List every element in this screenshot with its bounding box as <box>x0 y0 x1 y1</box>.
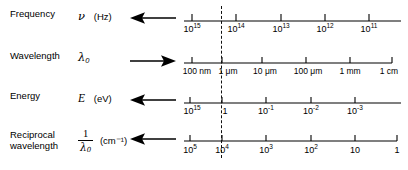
axis-frequency: 1015 1014 1013 1012 1011 <box>0 8 408 50</box>
tick-exp-e0: 15 <box>193 104 201 111</box>
tick-base-e2: 10 <box>258 106 268 116</box>
tick-base-f3: 10 <box>316 24 326 34</box>
tick-label-w0: 100 nm <box>183 66 211 76</box>
axis-reciprocal-wavelength: 105 104 103 102 10 1 <box>0 128 408 170</box>
scale-row-wavelength: Wavelength λ0 100 nm 1 μm 10 μm 100 <box>0 50 408 92</box>
svg-text:10-1: 10-1 <box>258 104 274 116</box>
tick-base-e4: 10 <box>347 106 357 116</box>
svg-text:105: 105 <box>183 143 197 155</box>
tick-label-w2: 10 μm <box>253 66 277 76</box>
tick-label-w4: 1 mm <box>339 66 360 76</box>
tick-base-e3: 10 <box>303 106 313 116</box>
tick-exp-e2: -1 <box>268 104 274 111</box>
svg-text:1015: 1015 <box>183 22 201 34</box>
tick-base-f2: 10 <box>272 24 282 34</box>
tick-base-e0: 10 <box>183 106 193 116</box>
spectrum-scale-figure: Frequency ν (Hz) 1015 1 <box>0 0 408 170</box>
tick-label-w3: 100 μm <box>294 66 323 76</box>
svg-text:1012: 1012 <box>316 22 334 34</box>
tick-exp-r0: 5 <box>193 143 197 150</box>
alignment-dashed-line <box>221 6 222 158</box>
tick-base-r0: 10 <box>183 145 193 155</box>
svg-text:103: 103 <box>259 143 273 155</box>
tick-exp-f2: 13 <box>282 22 290 29</box>
tick-exp-f1: 14 <box>237 22 245 29</box>
scale-row-energy: Energy E (eV) 1015 1 <box>0 90 408 132</box>
tick-label-e1: 1 <box>222 106 227 116</box>
svg-text:10-3: 10-3 <box>347 104 363 116</box>
tick-exp-f0: 15 <box>193 22 201 29</box>
tick-exp-f3: 12 <box>326 22 334 29</box>
svg-text:1011: 1011 <box>361 22 378 34</box>
axis-energy: 1015 1 10-1 10-2 10-3 <box>0 90 408 132</box>
tick-exp-e3: -2 <box>313 104 319 111</box>
tick-base-f0: 10 <box>183 24 193 34</box>
svg-text:1014: 1014 <box>227 22 245 34</box>
tick-base-f1: 10 <box>227 24 237 34</box>
tick-base-r2: 10 <box>259 145 269 155</box>
svg-text:104: 104 <box>215 143 229 155</box>
scale-row-frequency: Frequency ν (Hz) 1015 1 <box>0 8 408 50</box>
tick-exp-e4: -3 <box>357 104 363 111</box>
svg-text:1013: 1013 <box>272 22 290 34</box>
svg-text:1015: 1015 <box>183 104 201 116</box>
tick-exp-r3: 2 <box>314 143 318 150</box>
tick-base-f4: 10 <box>361 24 371 34</box>
tick-base-r3: 10 <box>304 145 314 155</box>
tick-label-r4: 10 <box>350 145 360 155</box>
tick-label-r5: 1 <box>394 145 399 155</box>
scale-row-reciprocal-wavelength: Reciprocal wavelength 1 λ0 (cm⁻¹) <box>0 128 408 170</box>
tick-exp-r1: 4 <box>225 143 229 150</box>
svg-text:102: 102 <box>304 143 318 155</box>
tick-exp-r2: 3 <box>269 143 273 150</box>
tick-label-w5: 1 cm <box>380 66 398 76</box>
svg-text:10-2: 10-2 <box>303 104 319 116</box>
tick-exp-f4: 11 <box>371 22 378 29</box>
axis-wavelength: 100 nm 1 μm 10 μm 100 μm 1 mm 1 cm <box>0 50 408 92</box>
